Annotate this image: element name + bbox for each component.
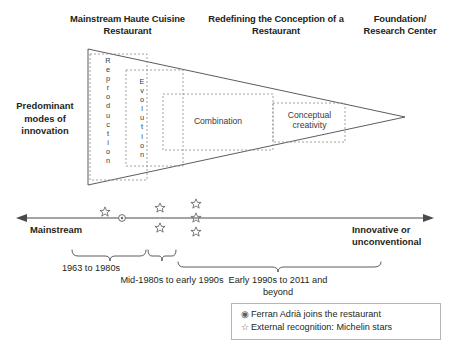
- timeline-axis: [16, 214, 434, 222]
- legend-label-star: External recognition: Michelin stars: [251, 321, 392, 334]
- star-marker: [191, 227, 201, 236]
- period-label-3: Early 1990s to 2011 and beyond: [218, 275, 338, 298]
- axis-label-innovative: Innovative or unconventional: [352, 224, 450, 248]
- evolution-label: Evolution: [135, 77, 149, 159]
- axis-label-mainstream: Mainstream: [30, 224, 130, 235]
- brace-period-1: [72, 250, 146, 261]
- axis-arrow-left: [16, 214, 27, 222]
- conceptual-creativity-label: Conceptual creativity: [273, 110, 346, 131]
- legend-box: ◉ Ferran Adrià joins the restaurant ☆ Ex…: [231, 303, 441, 340]
- period-label-2: Mid-1980s to early 1990s: [112, 275, 232, 287]
- star-marker-icon: ☆: [238, 321, 251, 334]
- star-marker: [155, 223, 165, 232]
- star-marker: [191, 199, 201, 208]
- star-marker: [100, 207, 110, 216]
- legend-row-star: ☆ External recognition: Michelin stars: [238, 321, 434, 334]
- legend-row-circle: ◉ Ferran Adrià joins the restaurant: [238, 308, 434, 321]
- triangle-diagram-graphics: [0, 0, 450, 355]
- innovation-evolution-diagram: Mainstream Haute Cuisine Restaurant Rede…: [0, 0, 450, 355]
- period-label-1: 1963 to 1980s: [36, 263, 146, 275]
- combination-label: Combination: [163, 116, 273, 126]
- circle-marker-icon: ◉: [238, 308, 251, 321]
- reproduction-label: Reproduction: [101, 56, 115, 165]
- brace-period-3: [178, 262, 381, 272]
- axis-arrow-right: [423, 214, 434, 222]
- brace-period-2: [148, 250, 176, 261]
- circle-marker-center: [121, 217, 124, 220]
- star-marker: [155, 203, 165, 212]
- legend-label-circle: Ferran Adrià joins the restaurant: [251, 308, 381, 321]
